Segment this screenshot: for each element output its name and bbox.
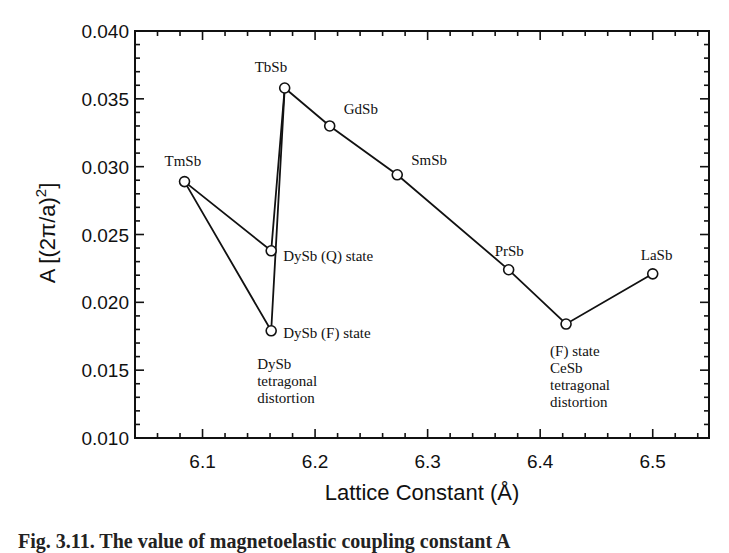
point-label: TbSb [255, 59, 288, 75]
point-label: TmSb [165, 153, 202, 169]
y-axis: 0.0100.0150.0200.0250.0300.0350.040 [81, 21, 709, 449]
y-tick-label: 0.020 [81, 292, 129, 313]
y-tick-label: 0.030 [81, 157, 129, 178]
data-point-marker [648, 269, 658, 279]
series-line [285, 88, 653, 324]
point-label: CeSb [550, 360, 583, 376]
data-point-marker [561, 319, 571, 329]
point-label: DySb (Q) state [283, 248, 373, 265]
x-axis-title: Lattice Constant (Å) [325, 480, 519, 505]
x-tick-label: 6.1 [189, 451, 215, 472]
point-label: GdSb [344, 101, 378, 117]
y-tick-label: 0.040 [81, 21, 129, 42]
annotation-label: DySb [257, 356, 291, 372]
y-tick-label: 0.010 [81, 428, 129, 449]
data-point-marker [280, 83, 290, 93]
point-labels: TmSbDySb (Q) stateDySb (F) stateTbSbGdSb… [165, 59, 673, 410]
y-tick-label: 0.025 [81, 225, 129, 246]
x-tick-label: 6.5 [640, 451, 666, 472]
series-line [185, 88, 285, 251]
data-point-marker [504, 265, 514, 275]
x-tick-label: 6.2 [302, 451, 328, 472]
annotation-label: distortion [257, 390, 315, 406]
x-tick-label: 6.3 [414, 451, 440, 472]
plot-frame [135, 31, 709, 438]
point-label: distortion [550, 394, 608, 410]
data-point-marker [266, 246, 276, 256]
x-tick-label: 6.4 [527, 451, 554, 472]
data-point-marker [180, 177, 190, 187]
point-label: (F) state [550, 343, 600, 360]
series-line [185, 88, 285, 331]
y-tick-label: 0.015 [81, 360, 129, 381]
y-axis-title: A [(2π/a)2] [32, 183, 60, 284]
data-point-marker [325, 121, 335, 131]
figure-caption: Fig. 3.11. The value of magnetoelastic c… [18, 530, 510, 553]
data-point-marker [392, 170, 402, 180]
point-label: tetragonal [550, 377, 610, 393]
x-axis: 6.16.26.36.46.5 [135, 31, 698, 472]
annotation-label: tetragonal [257, 373, 317, 389]
point-label: LaSb [641, 247, 673, 263]
point-label: SmSb [411, 152, 447, 168]
point-label: DySb (F) state [283, 325, 371, 342]
data-lines [185, 88, 653, 331]
point-label: PrSb [495, 243, 524, 259]
data-point-marker [266, 326, 276, 336]
y-tick-label: 0.035 [81, 89, 129, 110]
